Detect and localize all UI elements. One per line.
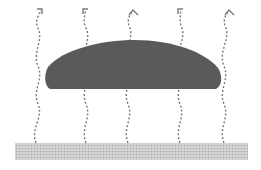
arrowhead-icon [129,10,138,15]
arrowhead-icon [225,10,234,15]
diagram-svg [0,0,261,170]
cloud-shape [45,40,221,89]
ground-surface [15,143,248,160]
diagram-canvas [0,0,261,170]
arrow-path-5 [222,11,229,143]
arrowheads [37,9,234,15]
arrow-path-1 [34,10,41,143]
